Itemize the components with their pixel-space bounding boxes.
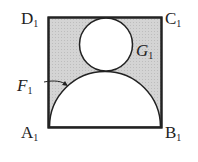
geometry-diagram: D1 C1 A1 B1 G1 F1 [0, 0, 198, 162]
label-f1: F1 [16, 76, 32, 96]
circle-g1 [80, 18, 133, 71]
label-c1: C1 [165, 9, 181, 29]
label-b1: B1 [165, 123, 181, 143]
label-a1: A1 [21, 123, 38, 143]
label-d1: D1 [21, 9, 38, 29]
